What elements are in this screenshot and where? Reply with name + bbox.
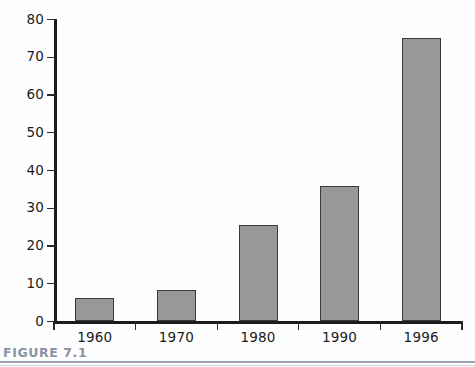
y-axis-line — [54, 19, 57, 324]
bar — [157, 290, 196, 321]
x-axis-tick-label: 1980 — [218, 331, 298, 345]
y-axis-tick-label: 0 — [8, 315, 44, 329]
bar — [402, 38, 441, 322]
y-axis-tick-label: 10 — [8, 277, 44, 291]
x-axis-tick — [298, 321, 299, 330]
y-axis-tick — [47, 57, 56, 58]
x-axis-tick-label: 1970 — [136, 331, 216, 345]
y-axis-tick-label: 50 — [8, 126, 44, 140]
y-axis-tick — [47, 94, 56, 95]
x-axis-tick — [135, 321, 136, 330]
y-axis-tick-label: 40 — [8, 164, 44, 178]
x-axis-origin-tick — [53, 321, 54, 330]
x-axis-tick-label: 1990 — [300, 331, 380, 345]
y-axis-tick — [47, 170, 56, 171]
bar — [320, 186, 359, 322]
x-axis-tick — [461, 321, 462, 330]
y-axis-tick-label-text: 10 — [8, 277, 44, 291]
figure-caption-label: FIGURE 7.1 — [3, 345, 87, 360]
figure-root: 01020304050607080 19601970198019901996 F… — [0, 0, 475, 367]
y-axis-tick-label: 80 — [8, 13, 44, 27]
y-axis-tick-label-text: 40 — [8, 164, 44, 178]
y-axis-tick-label-text: 60 — [8, 88, 44, 102]
bar — [239, 225, 278, 321]
y-axis-tick-label-text: 70 — [8, 50, 44, 64]
y-axis-tick-label: 20 — [8, 239, 44, 253]
x-axis-tick — [217, 321, 218, 330]
y-axis-tick-label-text: 50 — [8, 126, 44, 140]
y-axis-tick — [47, 208, 56, 209]
y-axis-tick — [47, 132, 56, 133]
y-axis-tick — [47, 283, 56, 284]
x-axis-tick — [380, 321, 381, 330]
y-axis-tick-label-text: 20 — [8, 239, 44, 253]
caption-rule — [0, 361, 475, 363]
figure-caption-block: FIGURE 7.1 — [0, 345, 475, 367]
y-axis-tick-label-text: 0 — [8, 315, 44, 329]
y-axis-tick-label: 30 — [8, 201, 44, 215]
y-axis-tick — [47, 245, 56, 246]
y-axis-tick-label-text: 80 — [8, 13, 44, 27]
bar-chart-plot-area: 01020304050607080 19601970198019901996 — [0, 0, 475, 340]
caption-rule-thin — [0, 365, 475, 366]
x-axis-tick-label: 1960 — [55, 331, 135, 345]
y-axis-tick-label-text: 30 — [8, 201, 44, 215]
bar — [75, 298, 114, 322]
y-axis-tick-label: 60 — [8, 88, 44, 102]
y-axis-tick-label: 70 — [8, 50, 44, 64]
x-axis-tick-label: 1996 — [381, 331, 461, 345]
y-axis-tick — [47, 19, 56, 20]
